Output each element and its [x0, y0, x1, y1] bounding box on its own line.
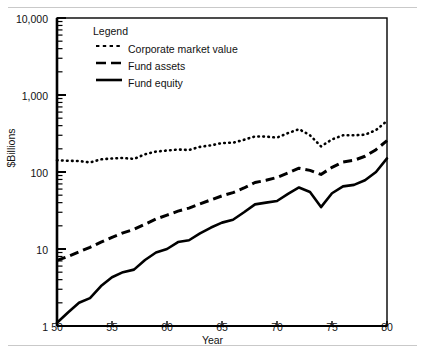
series-line-corporate-market-value [57, 121, 387, 162]
series-line-fund-equity [57, 158, 387, 322]
plot-frame [57, 18, 387, 326]
y-axis-ticks [57, 18, 66, 326]
chart-figure: 10,000 1,000 100 10 1 50 55 60 65 70 75 … [0, 0, 425, 353]
plot-area [0, 0, 425, 353]
data-series-layer [57, 121, 387, 323]
legend-line-samples [96, 46, 122, 80]
